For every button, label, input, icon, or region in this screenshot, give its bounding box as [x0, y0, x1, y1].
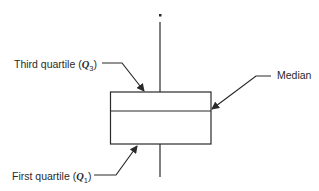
box — [111, 92, 212, 144]
third-quartile-arrow — [102, 63, 144, 91]
first-quartile-label: First quartile (Q1) — [12, 170, 91, 185]
median-arrow — [212, 76, 271, 109]
first-quartile-arrow — [94, 146, 137, 175]
median-label: Median — [277, 69, 312, 81]
box-plot-diagram: Third quartile (Q3) Median First quartil… — [0, 0, 319, 191]
outlier-point — [159, 14, 162, 17]
third-quartile-label: Third quartile (Q3) — [14, 58, 97, 73]
